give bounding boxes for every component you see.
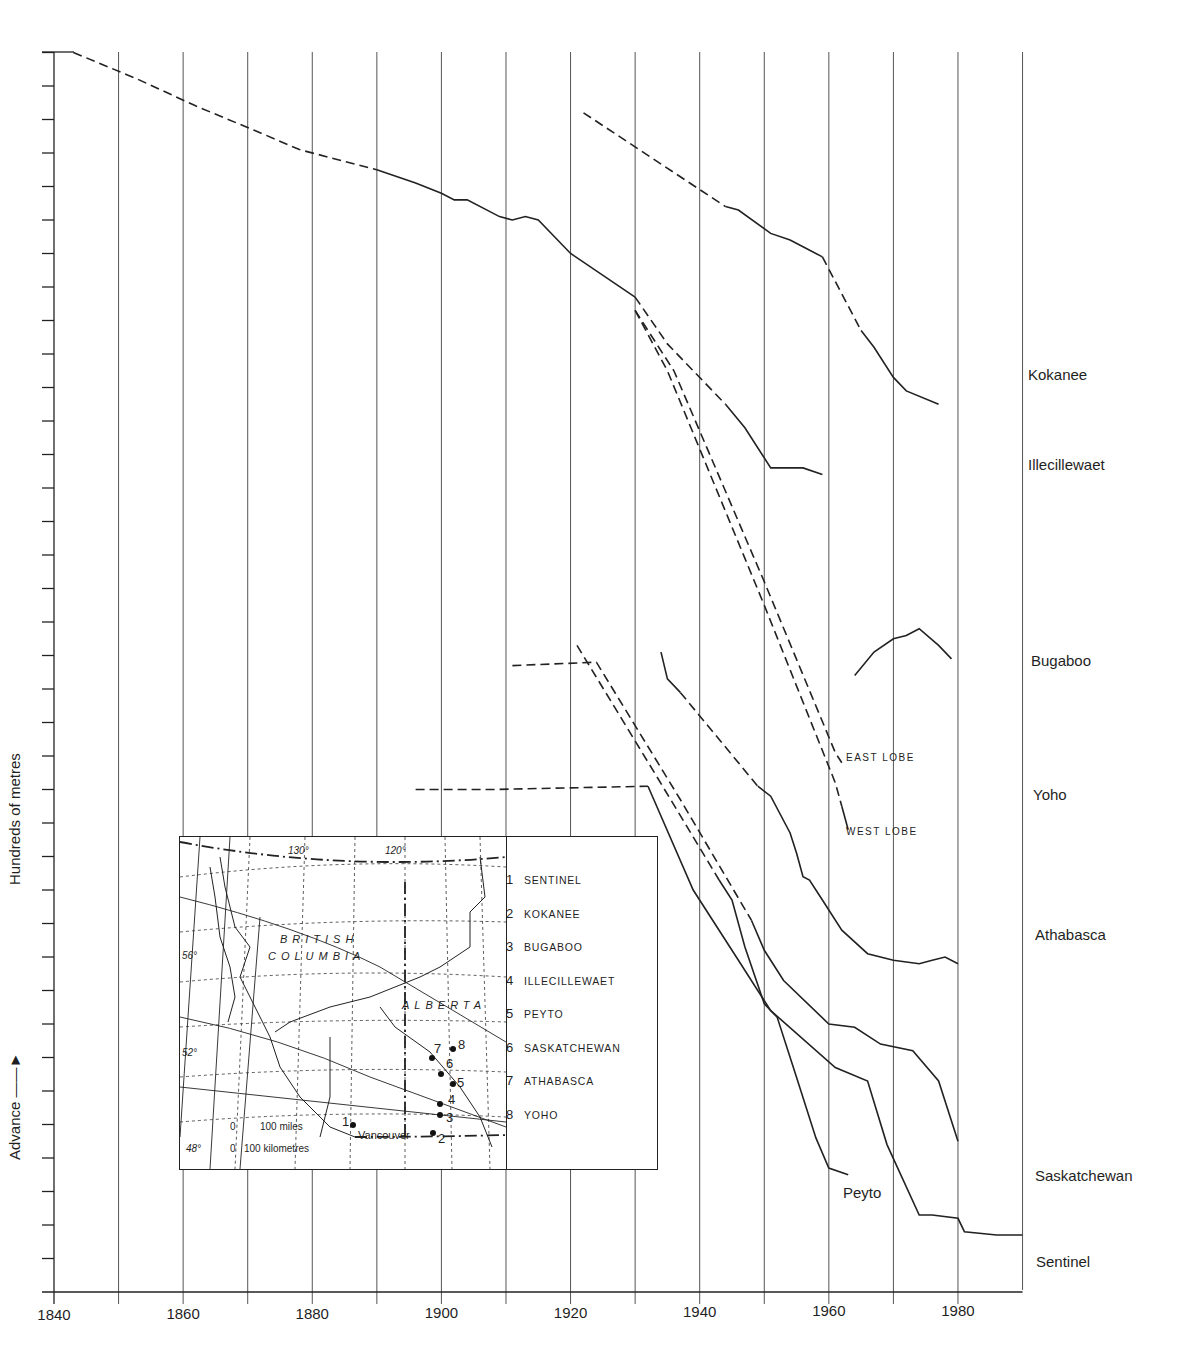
map-legend-number: 6	[506, 1040, 524, 1055]
map-legend-name: BUGABOO	[524, 941, 583, 953]
x-tick-1900: 1900	[425, 1304, 458, 1321]
map-legend-name: SENTINEL	[524, 874, 582, 886]
latitude-48: 48°	[186, 1143, 201, 1154]
curve-yoho-east-lobe	[635, 310, 842, 762]
map-legend-item: 1SENTINEL	[506, 872, 582, 887]
advance-label-text: Advance	[6, 1102, 23, 1160]
map-legend-item: 8YOHO	[506, 1107, 558, 1122]
curve-kokanee	[584, 113, 726, 207]
scale-zero-km: 0	[230, 1143, 236, 1154]
advance-arrow-icon: ——►	[6, 1053, 23, 1098]
label-illecillewaet: Illecillewaet	[1028, 456, 1105, 473]
map-legend-name: YOHO	[524, 1109, 558, 1121]
site-dot-1	[350, 1122, 356, 1128]
map-legend-number: 2	[506, 906, 524, 921]
site-dot-5	[450, 1081, 456, 1087]
map-legend-item: 5PEYTO	[506, 1006, 563, 1021]
x-tick-1940: 1940	[683, 1303, 716, 1320]
x-tick-1980: 1980	[941, 1302, 974, 1319]
site-marker-2: 2	[438, 1131, 445, 1146]
curve-sentinel	[416, 786, 648, 789]
region-alberta: ALBERTA	[402, 999, 486, 1011]
label-saskatchewan: Saskatchewan	[1035, 1167, 1133, 1184]
longitude-130: 130°	[288, 845, 309, 856]
curve-yoho-west-lobe	[635, 310, 842, 806]
map-legend-item: 7ATHABASCA	[506, 1073, 594, 1088]
map-legend-number: 7	[506, 1073, 524, 1088]
map-legend-name: ATHABASCA	[524, 1075, 594, 1087]
latitude-52: 52°	[182, 1047, 197, 1058]
curve-sentinel	[648, 786, 1023, 1235]
site-dot-7	[429, 1055, 435, 1061]
city-vancouver: Vancouver	[358, 1129, 410, 1141]
region-british: BRITISH	[280, 933, 358, 945]
advance-label: Advance ——►	[6, 1053, 23, 1160]
label-east-lobe: EAST LOBE	[846, 752, 915, 763]
site-dot-8	[450, 1046, 456, 1052]
map-legend-name: SASKATCHEWAN	[524, 1042, 621, 1054]
x-tick-1840: 1840	[37, 1306, 70, 1323]
curve-bugaboo	[855, 629, 952, 676]
curve-athabasca	[680, 692, 758, 786]
label-kokanee: Kokanee	[1028, 366, 1087, 383]
region-columbia: COLUMBIA	[268, 950, 365, 962]
x-tick-1860: 1860	[166, 1305, 199, 1322]
label-yoho: Yoho	[1033, 786, 1067, 803]
curve-athabasca	[758, 786, 958, 964]
map-legend-name: ILLECILLEWAET	[524, 975, 615, 987]
site-dot-3	[437, 1112, 443, 1118]
site-dot-4	[437, 1101, 443, 1107]
curve-kokanee	[822, 257, 861, 331]
inset-location-map: 130° 120° 56° 52° 48° BRITISH COLUMBIA A…	[179, 836, 658, 1170]
site-marker-5: 5	[457, 1075, 464, 1090]
map-legend-number: 3	[506, 939, 524, 954]
site-marker-8: 8	[458, 1037, 465, 1052]
curve-illecillewaet	[726, 404, 823, 474]
map-legend-item: 6SASKATCHEWAN	[506, 1040, 621, 1055]
map-legend-name: KOKANEE	[524, 908, 580, 920]
label-athabasca: Athabasca	[1035, 926, 1106, 943]
site-marker-7: 7	[434, 1041, 441, 1056]
curve-saskatchewan	[751, 920, 958, 1141]
scale-zero-miles: 0	[230, 1121, 236, 1132]
label-peyto: Peyto	[843, 1184, 881, 1201]
x-tick-1880: 1880	[296, 1305, 329, 1322]
site-marker-1: 1	[342, 1114, 349, 1129]
curve-kokanee	[861, 331, 939, 405]
map-legend-item: 2KOKANEE	[506, 906, 580, 921]
curve-kokanee	[726, 207, 823, 257]
label-west-lobe: WEST LOBE	[846, 826, 918, 837]
x-tick-1920: 1920	[554, 1304, 587, 1321]
longitude-120: 120°	[385, 845, 406, 856]
site-dot-6	[438, 1071, 444, 1077]
site-marker-3: 3	[446, 1110, 453, 1125]
label-sentinel: Sentinel	[1036, 1253, 1090, 1270]
site-dot-2	[430, 1130, 436, 1136]
label-bugaboo: Bugaboo	[1031, 652, 1091, 669]
y-axis-label-text: Hundreds of metres	[6, 753, 23, 885]
x-tick-1960: 1960	[812, 1302, 845, 1319]
scale-km: 100 kilometres	[244, 1143, 309, 1154]
curve-illecillewaet	[635, 297, 725, 404]
curve-athabasca	[661, 652, 680, 692]
map-legend-number: 8	[506, 1107, 524, 1122]
map-legend-name: PEYTO	[524, 1008, 563, 1020]
site-marker-4: 4	[448, 1092, 455, 1107]
site-marker-6: 6	[446, 1056, 453, 1071]
map-legend-number: 4	[506, 973, 524, 988]
map-legend-number: 1	[506, 872, 524, 887]
y-axis-label: Hundreds of metres	[6, 753, 23, 885]
scale-miles: 100 miles	[260, 1121, 303, 1132]
latitude-56: 56°	[182, 950, 197, 961]
map-legend-item: 3BUGABOO	[506, 939, 583, 954]
map-legend-item: 4ILLECILLEWAET	[506, 973, 615, 988]
map-legend-number: 5	[506, 1006, 524, 1021]
